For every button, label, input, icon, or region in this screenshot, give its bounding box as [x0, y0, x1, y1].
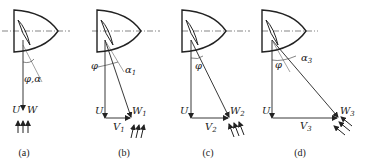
caption-c: (c) [202, 147, 213, 159]
v-label: V1 [113, 121, 125, 134]
v-label: V3 [300, 120, 312, 133]
blade-slot [18, 20, 30, 45]
u-label: U [95, 105, 104, 116]
angle-label: φ,α [24, 73, 41, 84]
w-vector [105, 40, 131, 117]
blade-slot [101, 20, 113, 45]
caption-a: (a) [18, 147, 29, 159]
phi-label: φ [91, 60, 98, 71]
flow-arrows-icon [18, 121, 28, 133]
w-label: W [27, 104, 38, 115]
flow-arrows-icon [334, 117, 352, 135]
panel-c: φ U W2 V2 (c) [180, 10, 250, 159]
u-label: U [180, 105, 189, 116]
panel-b: φ α1 U W1 V1 (b) [91, 10, 160, 159]
w-label: W3 [340, 105, 355, 118]
u-label: U [12, 104, 21, 115]
flow-arrows-icon [131, 125, 144, 138]
flow-arrows-icon [229, 122, 244, 137]
caption-d: (d) [294, 147, 306, 159]
phi-label: φ [195, 60, 202, 71]
w-vector [191, 40, 229, 117]
w-label: W2 [230, 105, 245, 118]
v-label: V2 [205, 121, 217, 134]
panel-a: φ,α U W (a) [2, 10, 70, 159]
phi-label: φ [275, 59, 282, 70]
velocity-triangle-diagram: φ,α U W (a) φ α1 U W1 V1 (b) [0, 0, 365, 166]
panel-d: φ α3 U W3 V3 (d) [262, 10, 355, 159]
alpha-label: α3 [301, 52, 313, 65]
u-label: U [262, 105, 271, 116]
caption-b: (b) [118, 147, 130, 159]
w-label: W1 [132, 105, 147, 118]
angle-arc [23, 59, 34, 63]
angle-arc [191, 56, 203, 59]
alpha-label: α1 [125, 64, 136, 77]
angle-arc [98, 62, 118, 67]
